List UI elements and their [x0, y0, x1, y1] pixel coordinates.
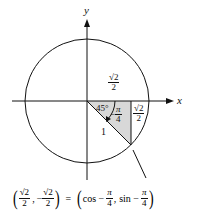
y-axis-label: y — [84, 5, 89, 16]
point-x-fraction: √22 — [19, 188, 30, 208]
horizontal-leg-label: √22 — [108, 73, 119, 93]
angle-radians-label: − π4 — [110, 105, 122, 125]
point-equation: ( √22 , − √22 ) = ( cos − π4 , sin − π4 … — [12, 188, 154, 208]
leader-line — [133, 150, 146, 178]
left-paren: ( — [13, 188, 18, 208]
x-axis-arrow-icon — [166, 98, 174, 104]
point-y-fraction: √22 — [42, 188, 53, 208]
hypotenuse-label: 1 — [101, 127, 106, 137]
vertical-leg-label: √22 — [133, 104, 144, 124]
angle-degrees-label: 45° — [96, 104, 109, 113]
y-axis-arrow-icon — [84, 19, 90, 27]
x-axis-label: x — [177, 95, 182, 106]
